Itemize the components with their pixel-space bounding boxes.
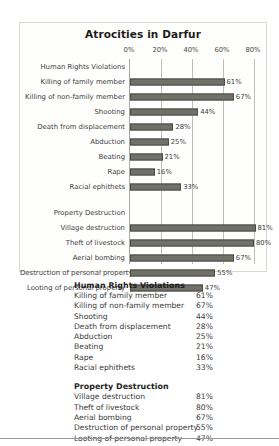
chart-bar-row: Aerial bombing67% <box>20 250 266 265</box>
chart-row-label: Destruction of personal property <box>20 269 125 277</box>
chart-row-label: Shooting <box>20 108 125 116</box>
chart-row-label: Beating <box>20 153 125 161</box>
table-row-value: 28% <box>196 322 213 332</box>
chart-row-label: Killing of family member <box>20 78 125 86</box>
chart-bar <box>130 78 225 85</box>
table-row-value: 33% <box>196 363 213 373</box>
chart-group-row: Human Rights Violations <box>20 59 266 74</box>
table-row-value: 67% <box>196 413 213 423</box>
chart-bar-value: 81% <box>258 224 273 232</box>
table-row-value: 55% <box>196 423 213 433</box>
chart-row-label: Theft of livestock <box>20 239 125 247</box>
chart-bar-value: 21% <box>165 153 180 161</box>
table-row-label: Destruction of personal property <box>74 423 198 433</box>
chart-row-label: Village destruction <box>20 224 125 232</box>
table-row-label: Rape <box>74 353 93 363</box>
chart-bar-row: Death from displacement28% <box>20 119 266 134</box>
x-tick-label: 0% <box>124 46 135 54</box>
chart-bar <box>130 183 181 190</box>
chart-bar-row: Beating21% <box>20 149 266 164</box>
chart-row-label: Racial ephithets <box>20 183 125 191</box>
table-row: Theft of livestock80% <box>74 403 234 413</box>
table-row-label: Village destruction <box>74 392 145 402</box>
table-row-value: 61% <box>196 291 213 301</box>
chart-bar-value: 16% <box>157 168 172 176</box>
table-row-label: Shooting <box>74 312 108 322</box>
table-row: Abduction25% <box>74 332 234 342</box>
chart-bar <box>130 168 155 175</box>
table-row: Beating21% <box>74 342 234 352</box>
chart-row-label: Human Rights Violations <box>20 63 125 71</box>
chart-bar <box>130 239 254 246</box>
chart-bar-value: 67% <box>236 93 251 101</box>
chart-bar-value: 67% <box>236 254 251 262</box>
table-row-value: 81% <box>196 392 213 402</box>
table-row-value: 44% <box>196 312 213 322</box>
table-row: Killing of non-family member67% <box>74 301 234 311</box>
chart-bar <box>130 254 234 261</box>
chart-bar-value: 80% <box>256 239 271 247</box>
chart-bar-value: 61% <box>227 78 242 86</box>
chart-row-label: Rape <box>20 168 125 176</box>
table-row: Aerial bombing67% <box>74 413 234 423</box>
chart-row-label: Aerial bombing <box>20 254 125 262</box>
chart-bar-row: Theft of livestock80% <box>20 235 266 250</box>
table-group-title: Human Rights Violations <box>74 281 234 290</box>
table-row-label: Death from displacement <box>74 322 171 332</box>
table-group-title: Property Destruction <box>74 382 234 391</box>
chart-bar <box>130 138 169 145</box>
table-row: Death from displacement28% <box>74 322 234 332</box>
chart-bar-value: 28% <box>175 123 190 131</box>
chart-bar-row: Village destruction81% <box>20 220 266 235</box>
chart-bar <box>130 224 256 231</box>
chart-title: Atrocities in Darfur <box>20 28 266 40</box>
table-row-label: Racial ephithets <box>74 363 135 373</box>
x-axis-tick-labels: 0%20%40%60%80% <box>20 46 266 57</box>
table-row: Racial ephithets33% <box>74 363 234 373</box>
chart-row-label: Killing of non-family member <box>20 93 125 101</box>
chart-row-label: Abduction <box>20 138 125 146</box>
table-row-label: Beating <box>74 342 103 352</box>
chart-bar-row: Abduction25% <box>20 134 266 149</box>
table-row-value: 16% <box>196 353 213 363</box>
chart-rows: Human Rights ViolationsKilling of family… <box>20 59 266 264</box>
chart-bar-row: Rape16% <box>20 164 266 179</box>
chart-row-label: Property Destruction <box>20 209 125 217</box>
table-row-value: 25% <box>196 332 213 342</box>
chart-bar-row: Killing of family member61% <box>20 74 266 89</box>
x-tick-label: 60% <box>214 46 229 54</box>
table-row: Killing of family member61% <box>74 291 234 301</box>
chart-bar-row: Killing of non-family member67% <box>20 89 266 104</box>
x-tick-label: 80% <box>245 46 260 54</box>
chart-bar-value: 33% <box>183 183 198 191</box>
table-row: Rape16% <box>74 353 234 363</box>
chart-row-label: Death from displacement <box>20 123 125 131</box>
chart-panel: Atrocities in Darfur 0%20%40%60%80% Huma… <box>19 22 267 272</box>
chart-bar-row: Destruction of personal property55% <box>20 265 266 280</box>
table-row: Village destruction81% <box>74 392 234 402</box>
chart-bar-row: Racial ephithets33% <box>20 179 266 194</box>
chart-group-row: Property Destruction <box>20 205 266 220</box>
table-row-value: 80% <box>196 403 213 413</box>
chart-bar <box>130 269 215 276</box>
table-group-gap <box>74 373 234 382</box>
table-row-label: Abduction <box>74 332 112 342</box>
x-tick-label: 40% <box>183 46 198 54</box>
chart-bar <box>130 153 163 160</box>
table-row: Shooting44% <box>74 312 234 322</box>
table-row-label: Aerial bombing <box>74 413 132 423</box>
chart-bar-value: 25% <box>171 138 186 146</box>
chart-bar <box>130 93 234 100</box>
table-row-label: Killing of non-family member <box>74 301 184 311</box>
chart-bar-row: Shooting44% <box>20 104 266 119</box>
table-row-value: 67% <box>196 301 213 311</box>
chart-bar-value: 44% <box>200 108 215 116</box>
table-row-label: Killing of family member <box>74 291 167 301</box>
chart-bar <box>130 123 173 130</box>
table-row-label: Theft of livestock <box>74 403 139 413</box>
chart-bar <box>130 108 198 115</box>
table-row: Destruction of personal property55% <box>74 423 234 433</box>
x-tick-label: 20% <box>152 46 167 54</box>
data-table: Human Rights ViolationsKilling of family… <box>74 281 234 444</box>
table-row-value: 21% <box>196 342 213 352</box>
